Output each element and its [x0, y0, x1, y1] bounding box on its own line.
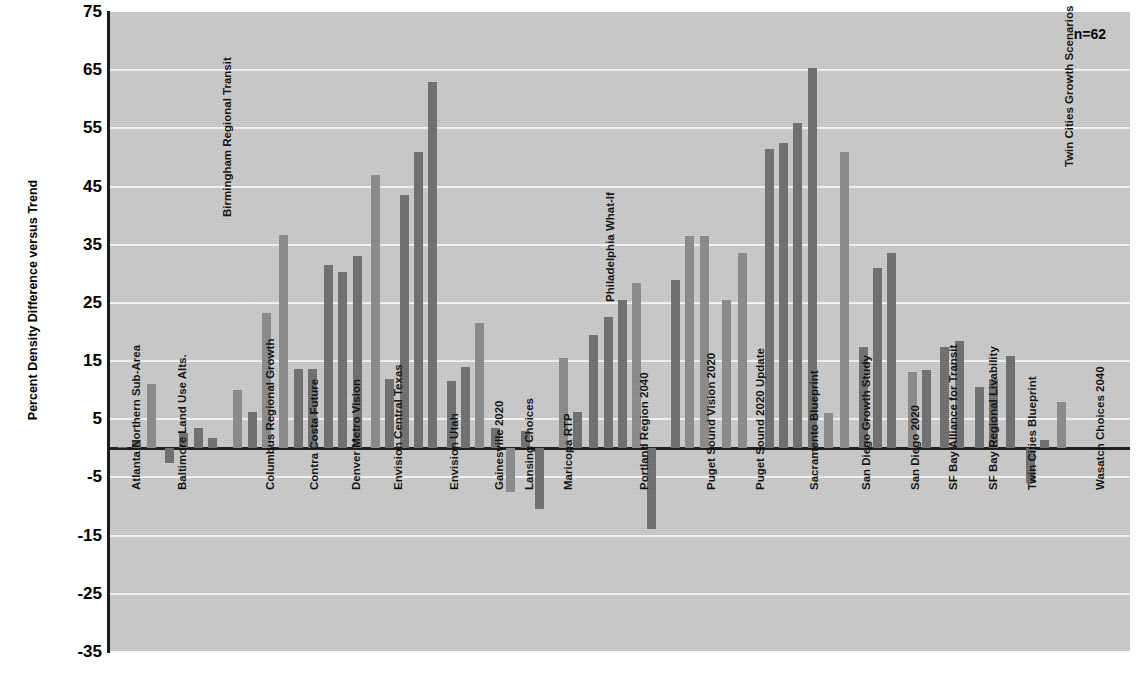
- bar: [324, 265, 333, 448]
- bar: [975, 387, 984, 448]
- y-axis-tick-label: 45: [36, 178, 102, 195]
- y-axis-tick-label: 25: [36, 294, 102, 311]
- bar: [873, 268, 882, 448]
- bar: [233, 390, 242, 448]
- x-axis-category-label: Envision Utah: [449, 413, 461, 490]
- bar: [118, 447, 127, 449]
- bar: [279, 235, 288, 448]
- bar: [1040, 440, 1049, 449]
- bar: [922, 370, 931, 449]
- y-axis-spine: [107, 11, 110, 653]
- bar: [779, 143, 788, 448]
- gridline: [110, 127, 1130, 129]
- bar: [840, 152, 849, 449]
- y-axis-tick-label: 15: [36, 352, 102, 369]
- gridline: [110, 186, 1130, 188]
- bar: [475, 323, 484, 448]
- sample-size-annotation: n=62: [1074, 26, 1106, 42]
- bar: [194, 428, 203, 448]
- bar: [294, 369, 303, 448]
- x-axis-category-label: Maricopa RTP: [563, 413, 575, 490]
- bar: [165, 448, 174, 463]
- x-axis-category-label: SF Bay Regional Livability: [988, 346, 1000, 490]
- y-axis-tick-label: 55: [36, 119, 102, 136]
- chart-root: Percent Density Difference versus Trend …: [0, 0, 1136, 698]
- x-axis-category-label: Wasatch Choices 2040: [1095, 366, 1107, 490]
- x-axis-category-label: SF Bay Alliance for Transit: [948, 345, 960, 490]
- bar: [147, 384, 156, 448]
- x-axis-category-label: Gainesville 2020: [494, 400, 506, 490]
- bar: [685, 236, 694, 448]
- bar: [461, 367, 470, 448]
- x-axis-category-label: Lansing Choices: [524, 398, 536, 490]
- x-axis-category-label: Puget Sound Vision 2020: [706, 353, 718, 490]
- gridline: [110, 244, 1130, 246]
- bar: [248, 412, 257, 449]
- x-axis-category-label: Birmingham Regional Transit: [222, 57, 234, 217]
- bar: [618, 300, 627, 448]
- x-axis-category-label: Puget Sound 2020 Update: [755, 348, 767, 490]
- bar: [722, 300, 731, 448]
- y-axis-tick-label: -5: [36, 468, 102, 485]
- x-axis-category-label: Twin Cities Blueprint: [1027, 376, 1039, 490]
- gridline: [110, 69, 1130, 71]
- y-axis-tick-label: -15: [36, 527, 102, 544]
- bar: [604, 317, 613, 448]
- y-axis-tick-label: 5: [36, 410, 102, 427]
- bar: [738, 253, 747, 448]
- bar: [1057, 402, 1066, 449]
- x-axis-category-label: Sacramento Blueprint: [809, 371, 821, 491]
- y-axis-tick-label: -25: [36, 585, 102, 602]
- x-axis-category-label: Denver Metro Vision: [351, 379, 363, 490]
- bar: [671, 280, 680, 449]
- plot-area: n=62 Atlanta Northern Sub-AreaBaltimore …: [110, 12, 1130, 652]
- bar: [887, 253, 896, 448]
- x-axis-category-label: Baltimore Land Use Alts.: [177, 354, 189, 490]
- x-axis-category-label: Atlanta Northern Sub-Area: [131, 345, 143, 490]
- gridline: [110, 476, 1130, 478]
- x-axis-category-label: Contra Costa Future: [309, 379, 321, 490]
- x-axis-category-label: Envision Central Texas: [393, 364, 405, 490]
- x-axis-category-label: Portland Region 2040: [639, 372, 651, 490]
- gridline: [110, 535, 1130, 537]
- y-axis-tick-label: -35: [36, 643, 102, 660]
- bar: [338, 272, 347, 448]
- bar: [428, 82, 437, 449]
- bar: [506, 448, 515, 492]
- bar: [371, 175, 380, 448]
- gridline: [110, 651, 1130, 653]
- y-axis-tick-labels: 756555453525155-5-15-25-35: [36, 0, 102, 698]
- y-axis-tick-label: 35: [36, 236, 102, 253]
- bar: [208, 438, 217, 448]
- gridline: [110, 593, 1130, 595]
- x-axis-category-label: San Diego Growth Study: [861, 355, 873, 490]
- bar: [414, 152, 423, 449]
- y-axis-tick-label: 65: [36, 61, 102, 78]
- bar: [824, 413, 833, 448]
- bar: [793, 123, 802, 449]
- x-axis-category-label: San Diego 2020: [910, 405, 922, 490]
- x-axis-category-label: Columbus Regional Growth: [265, 339, 277, 490]
- bar: [1006, 356, 1015, 448]
- bar: [535, 448, 544, 509]
- x-axis-category-label: Philadelphia What-If: [605, 192, 617, 302]
- y-axis-tick-label: 75: [36, 3, 102, 20]
- bar: [589, 335, 598, 448]
- x-axis-category-label: Twin Cities Growth Scenarios: [1064, 6, 1076, 167]
